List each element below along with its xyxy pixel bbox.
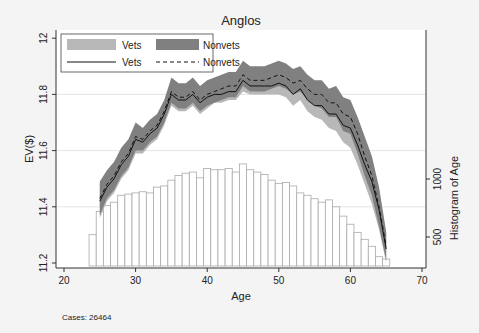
histogram-bar xyxy=(182,173,189,266)
histogram-bar xyxy=(118,195,125,266)
histogram-bar xyxy=(368,246,375,266)
histogram-bar xyxy=(96,211,103,266)
histogram-bar xyxy=(375,257,382,266)
x-tick-label: 60 xyxy=(345,275,357,286)
histogram-bar xyxy=(103,206,110,266)
chart-title: Anglos xyxy=(221,13,261,28)
histogram-bar xyxy=(282,182,289,266)
y2-tick-label: 1000 xyxy=(432,167,443,190)
histogram-bar xyxy=(225,169,232,266)
histogram-bar xyxy=(268,180,275,266)
y-tick-label: 11.4 xyxy=(38,197,49,216)
histogram-bar xyxy=(239,164,246,266)
histogram-bar xyxy=(132,193,139,266)
y-tick-label: 12 xyxy=(38,32,49,44)
y-axis-label: EV($) xyxy=(23,135,35,163)
histogram-bar xyxy=(254,172,261,266)
cases-note: Cases: 26464 xyxy=(62,313,112,322)
histogram-bar xyxy=(189,172,196,266)
histogram-bar xyxy=(161,186,168,266)
histogram-bar xyxy=(318,202,325,266)
histogram-bar xyxy=(275,184,282,266)
histogram-bar xyxy=(333,207,340,266)
histogram-bar xyxy=(290,186,297,266)
y-tick-label: 11.8 xyxy=(38,85,49,104)
x-tick-label: 50 xyxy=(273,275,285,286)
histogram-bar xyxy=(89,235,96,266)
y-tick-label: 11.2 xyxy=(38,253,49,272)
histogram-bar xyxy=(175,176,182,266)
histogram-bar xyxy=(218,170,225,266)
histogram-bar xyxy=(111,202,118,266)
histogram-bar xyxy=(347,224,354,266)
histogram-bar xyxy=(211,170,218,266)
histogram-bar xyxy=(340,216,347,266)
x-tick-label: 70 xyxy=(416,275,428,286)
histogram-bar xyxy=(354,232,361,266)
histogram-bar xyxy=(361,239,368,266)
legend-label-nonvets-band: Nonvets xyxy=(203,40,240,51)
x-tick-label: 30 xyxy=(130,275,142,286)
legend-swatch-vets-band xyxy=(67,39,116,50)
legend-swatch-nonvets-band xyxy=(156,39,199,50)
histogram-bar xyxy=(247,170,254,266)
legend-label-vets-band: Vets xyxy=(122,40,141,51)
y2-axis-label: Histogram of Age xyxy=(448,156,460,240)
histogram-bar xyxy=(139,192,146,266)
histogram-bar xyxy=(232,172,239,266)
legend-label-nonvets-line: Nonvets xyxy=(203,57,240,68)
y-tick-label: 11.6 xyxy=(38,141,49,160)
x-tick-label: 40 xyxy=(202,275,214,286)
histogram-bar xyxy=(204,169,211,266)
histogram-bar xyxy=(168,180,175,266)
x-axis-label: Age xyxy=(231,290,251,302)
histogram-bar xyxy=(311,199,318,266)
chart: 11.211.411.611.8122030405060705001000 An… xyxy=(0,0,479,333)
histogram-bar xyxy=(297,193,304,266)
x-tick-label: 20 xyxy=(58,275,70,286)
histogram-bar xyxy=(154,187,161,266)
histogram-bar xyxy=(304,195,311,266)
histogram-bar xyxy=(325,200,332,266)
legend: Vets Nonvets Vets Nonvets xyxy=(61,34,240,72)
histogram-bar xyxy=(146,193,153,266)
histogram-bar xyxy=(125,194,132,266)
histogram-bar xyxy=(261,174,268,266)
histogram-bar xyxy=(196,178,203,266)
y2-tick-label: 500 xyxy=(432,228,443,245)
legend-label-vets-line: Vets xyxy=(122,57,141,68)
